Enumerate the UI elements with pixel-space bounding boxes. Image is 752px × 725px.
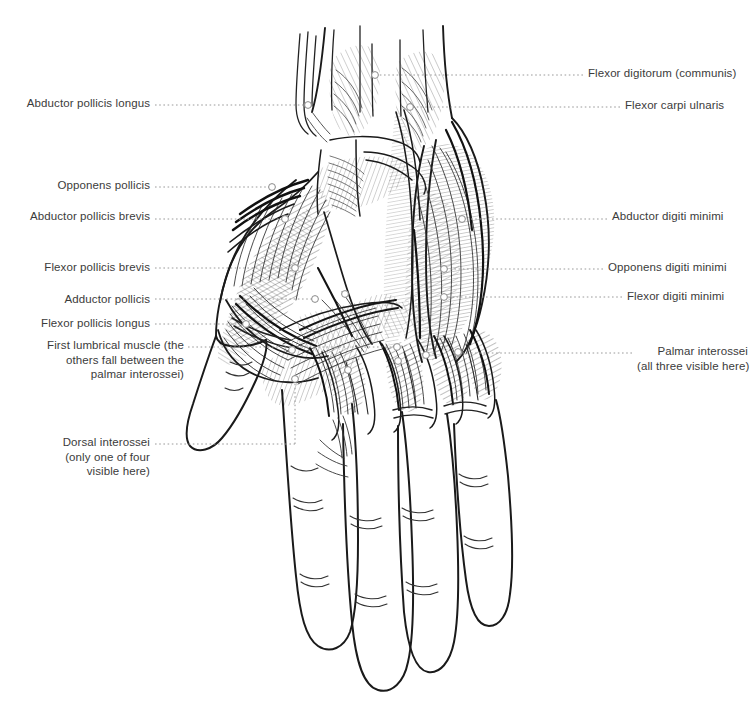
label-line: Opponens pollicis [58, 178, 150, 193]
label-line: Opponens digiti minimi [608, 260, 727, 275]
label-abductor-pollicis-longus: Abductor pollicis longus [27, 96, 150, 111]
finger-web-shading [316, 416, 352, 477]
label-line: visible here) [63, 464, 150, 479]
marker-dorsal-interossei [292, 376, 299, 383]
marker-abductor-digiti-minimi [459, 216, 466, 223]
label-abductor-digiti-minimi: Abductor digiti minimi [612, 209, 724, 224]
marker-first-lumbrical-muscle [394, 344, 401, 351]
index-finger [282, 390, 358, 650]
label-line: Flexor pollicis brevis [44, 260, 150, 275]
marker-opponens-pollicis [269, 184, 276, 191]
interossei-hatch-4 [462, 326, 508, 402]
marker-flexor-carpi-ulnaris [407, 104, 414, 111]
marker-adductor-pollicis [312, 296, 319, 303]
ring-creases [402, 508, 438, 595]
label-line: Flexor pollicis longus [41, 316, 150, 331]
label-line: Abductor digiti minimi [612, 209, 724, 224]
middle-finger [343, 412, 413, 691]
wrist-muscle-hatch-a [320, 40, 390, 150]
label-line: (only one of four [63, 450, 150, 465]
label-opponens-digiti-minimi: Opponens digiti minimi [608, 260, 727, 275]
label-dorsal-interossei: Dorsal interossei(only one of fourvisibl… [63, 435, 150, 479]
marker-flexor-pollicis-brevis [292, 265, 299, 272]
marker-abductor-pollicis-longus [305, 102, 312, 109]
label-flexor-pollicis-brevis: Flexor pollicis brevis [44, 260, 150, 275]
label-line: Abductor pollicis longus [27, 96, 150, 111]
label-line: others fall between the [47, 353, 184, 368]
label-abductor-pollicis-brevis: Abductor pollicis brevis [30, 209, 150, 224]
label-line: Flexor digiti minimi [627, 289, 724, 304]
label-adductor-pollicis: Adductor pollicis [65, 292, 150, 307]
label-palmar-interossei: Palmar interossei(all three visible here… [637, 344, 748, 373]
marker-opponens-digiti-minimi [441, 266, 448, 273]
label-first-lumbrical-muscle: First lumbrical muscle (theothers fall b… [47, 338, 184, 382]
index-creases [291, 466, 329, 587]
marker-web-b [423, 352, 430, 359]
label-line: Abductor pollicis brevis [30, 209, 150, 224]
marker-flexor-digitorum-communis [372, 72, 379, 79]
label-flexor-digitorum-communis: Flexor digitorum (communis) [588, 66, 736, 81]
label-flexor-pollicis-longus: Flexor pollicis longus [41, 316, 150, 331]
label-flexor-digiti-minimi: Flexor digiti minimi [627, 289, 724, 304]
marker-web-c [455, 349, 462, 356]
marker-abductor-pollicis-brevis [282, 216, 289, 223]
label-line: First lumbrical muscle (the [47, 338, 184, 353]
label-flexor-carpi-ulnaris: Flexor carpi ulnaris [625, 98, 724, 113]
marker-web-a [395, 358, 402, 365]
label-line: Dorsal interossei [63, 435, 150, 450]
apl-tendon-slip [307, 112, 330, 142]
little-finger [454, 400, 512, 626]
ink-drawing [186, 26, 512, 691]
little-creases [459, 474, 493, 549]
label-line: Adductor pollicis [65, 292, 150, 307]
marker-palm-a [342, 291, 349, 298]
label-opponens-pollicis: Opponens pollicis [58, 178, 150, 193]
label-line: Palmar interossei [637, 344, 748, 359]
marker-thenar-low [289, 347, 296, 354]
thumb-creases [225, 362, 252, 390]
marker-palm-b [345, 367, 352, 374]
marker-flexor-digiti-minimi [441, 294, 448, 301]
label-line: Flexor digitorum (communis) [588, 66, 736, 81]
marker-flexor-pollicis-longus [243, 321, 250, 328]
label-line: palmar interossei) [47, 367, 184, 382]
label-line: (all three visible here) [637, 359, 748, 374]
label-line: Flexor carpi ulnaris [625, 98, 724, 113]
